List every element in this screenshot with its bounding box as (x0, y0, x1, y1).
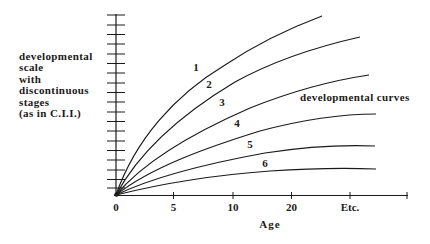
x-axis-label: Age (259, 218, 280, 230)
curve-label-1: 1 (193, 61, 199, 73)
curve-label-6: 6 (262, 157, 268, 169)
curve-label-3: 3 (219, 96, 225, 108)
x-tick-label-5: 5 (171, 201, 177, 213)
origin-dot (114, 192, 118, 196)
developmental-curves-annotation: developmental curves (300, 91, 410, 103)
chart-canvas: 0 5 10 20 Etc. Age developmental curves … (0, 0, 430, 244)
x-tick-label-etc: Etc. (341, 201, 360, 213)
developmental-curve-2 (116, 37, 360, 195)
curve-label-4: 4 (234, 117, 240, 129)
x-tick-label-10: 10 (228, 201, 240, 213)
curve-label-5: 5 (247, 138, 253, 150)
curve-label-2: 2 (206, 78, 212, 90)
x-tick-label-20: 20 (286, 201, 298, 213)
x-tick-label-0: 0 (113, 201, 119, 213)
developmental-curve-6 (116, 168, 376, 195)
